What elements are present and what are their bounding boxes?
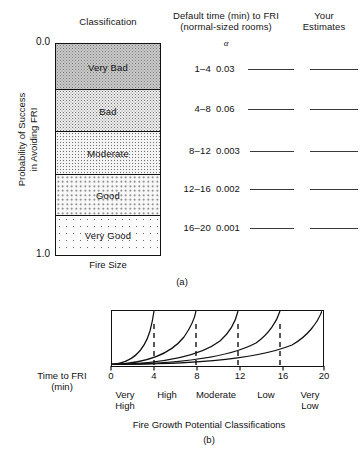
growth-class-high-line1: High <box>148 389 186 400</box>
header-default-time-line1: Default time (min) to FRI <box>163 10 289 21</box>
y-axis-top-value: 0.0 <box>24 36 50 47</box>
growth-class-very-low-line1: Very <box>288 389 332 400</box>
growth-curves-box <box>111 310 324 367</box>
tick-label-8: 8 <box>185 370 209 381</box>
band-label-good: Good <box>95 190 121 201</box>
growth-class-moderate: Moderate <box>186 389 246 400</box>
tick-label-16: 16 <box>271 370 295 381</box>
growth-class-very-high-line2: High <box>103 400 147 411</box>
x-axis-label-fire-size: Fire Size <box>55 259 161 270</box>
growth-class-very-high: Very High <box>103 389 147 411</box>
row-alpha-4: 0.002 <box>216 183 250 194</box>
default-line-1 <box>248 69 294 70</box>
band-label-moderate: Moderate <box>86 148 130 159</box>
band-bad: Bad <box>56 90 160 132</box>
row-time-2: 4–8 <box>169 103 211 114</box>
time-to-fri-line2: (min) <box>18 381 106 392</box>
x-axis-ticks <box>108 366 328 372</box>
default-line-3 <box>250 151 294 152</box>
row-time-5: 16–20 <box>169 222 211 233</box>
band-very-good: Very Good <box>56 216 160 254</box>
band-moderate: Moderate <box>56 132 160 175</box>
band-very-bad: Very Bad <box>56 44 160 90</box>
estimate-line-1[interactable] <box>310 69 358 70</box>
default-line-5 <box>250 228 294 229</box>
header-default-time-line2: (normal-sized rooms) <box>163 21 289 32</box>
header-your-estimates-line2: Estimates <box>290 21 358 32</box>
figure-container: Classification Default time (min) to FRI… <box>0 0 364 453</box>
growth-class-low-line1: Low <box>247 389 285 400</box>
row-alpha-2: 0.06 <box>216 103 250 114</box>
panel-b-label: (b) <box>189 434 229 445</box>
row-alpha-1: 0.03 <box>216 63 250 74</box>
default-line-2 <box>248 109 294 110</box>
band-label-bad: Bad <box>98 105 118 116</box>
band-label-very-good: Very Good <box>84 230 133 241</box>
alpha-symbol-label: α <box>212 38 240 48</box>
row-time-3: 8–12 <box>169 145 211 156</box>
header-classification: Classification <box>62 16 154 27</box>
y-axis-label: Probability of Success in Avoiding FRI <box>16 56 39 224</box>
curve-moderate <box>112 311 238 364</box>
y-axis-label-line1: Probability of Success <box>16 56 28 224</box>
row-alpha-3: 0.003 <box>216 145 250 156</box>
growth-class-low: Low <box>247 389 285 400</box>
header-your-estimates-line1: Your <box>290 10 358 21</box>
growth-class-moderate-line1: Moderate <box>186 389 246 400</box>
tick-label-20: 20 <box>312 370 336 381</box>
estimate-line-3[interactable] <box>310 151 358 152</box>
y-axis-bottom-value: 1.0 <box>24 248 50 259</box>
estimate-line-4[interactable] <box>310 189 358 190</box>
growth-class-high: High <box>148 389 186 400</box>
panel-a-label: (a) <box>162 276 202 287</box>
band-good: Good <box>56 175 160 216</box>
tick-label-4: 4 <box>142 370 166 381</box>
y-axis-label-time-to-fri: Time to FRI (min) <box>18 370 106 392</box>
estimate-line-5[interactable] <box>310 228 358 229</box>
row-alpha-5: 0.001 <box>216 222 250 233</box>
y-axis-label-line2: in Avoiding FRI <box>27 56 39 224</box>
panel-b-caption: Fire Growth Potential Classifications <box>94 419 324 430</box>
growth-class-very-low-line2: Low <box>288 400 332 411</box>
growth-class-very-low: Very Low <box>288 389 332 411</box>
estimate-line-2[interactable] <box>310 109 358 110</box>
band-label-very-bad: Very Bad <box>87 61 129 72</box>
default-line-4 <box>250 189 294 190</box>
tick-label-12: 12 <box>228 370 252 381</box>
time-to-fri-line1: Time to FRI <box>18 370 106 381</box>
growth-curves-svg <box>112 311 322 365</box>
row-time-1: 1–4 <box>169 63 211 74</box>
growth-class-very-high-line1: Very <box>103 389 147 400</box>
curve-very-high <box>112 311 154 364</box>
row-time-4: 12–16 <box>169 183 211 194</box>
classification-stack: Very Bad Bad Moderate Good Very Good <box>55 43 161 256</box>
